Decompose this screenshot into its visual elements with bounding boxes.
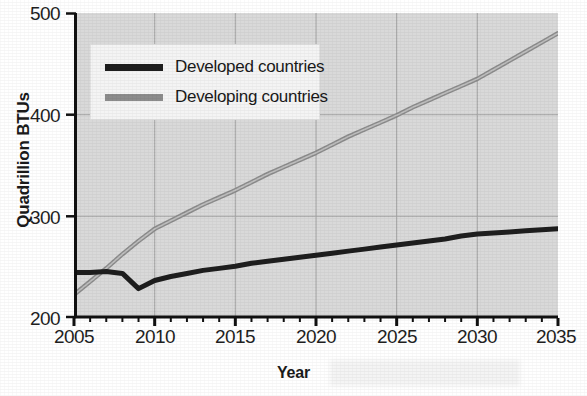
chart-figure: 500 400 300 200 Quadrillion BTUs [0, 0, 587, 396]
chart-legend: Developed countries Developing countries [90, 44, 320, 120]
x-axis-label: Year [0, 364, 587, 382]
x-tick-label: 2005 [39, 326, 109, 348]
x-tick-label: 2015 [200, 326, 270, 348]
x-tick-label: 2035 [521, 326, 587, 348]
legend-swatch-developed [105, 64, 163, 71]
legend-label-developed: Developed countries [175, 57, 324, 77]
legend-item-developed: Developed countries [105, 54, 324, 80]
legend-label-developing: Developing countries [175, 87, 328, 107]
x-axis-ticks [74, 318, 558, 326]
legend-item-developing: Developing countries [105, 84, 328, 110]
x-tick-label: 2010 [120, 326, 190, 348]
legend-swatch-developing [105, 94, 163, 101]
x-tick-label: 2020 [281, 326, 351, 348]
x-tick-label: 2025 [362, 326, 432, 348]
x-tick-label: 2030 [442, 326, 512, 348]
